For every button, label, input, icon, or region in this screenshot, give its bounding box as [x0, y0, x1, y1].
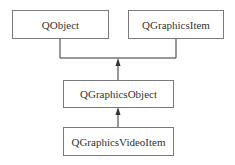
class-hierarchy-diagram: QObject QGraphicsItem QGraphicsObject QG… [0, 0, 235, 165]
arrowhead-icon [116, 58, 121, 66]
node-label: QGraphicsItem [142, 19, 210, 31]
node-qgraphicsobject: QGraphicsObject [63, 80, 174, 108]
node-qgraphicsvideoitem: QGraphicsVideoItem [63, 127, 174, 156]
node-label: QGraphicsObject [80, 88, 157, 100]
node-label: QObject [42, 19, 79, 31]
node-label: QGraphicsVideoItem [71, 136, 165, 148]
node-qgraphicsitem: QGraphicsItem [128, 10, 224, 39]
arrowhead-icon [116, 107, 121, 115]
node-qobject: QObject [12, 10, 109, 39]
